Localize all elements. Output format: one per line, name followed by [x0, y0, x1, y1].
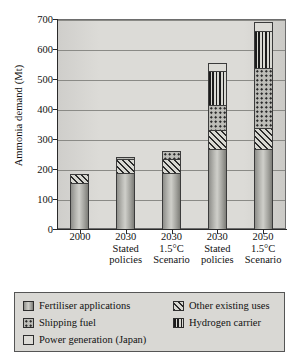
- y-tick-label: 100: [19, 194, 53, 205]
- bar-segment-ship: [116, 157, 135, 159]
- legend-label: Other existing uses: [189, 300, 270, 311]
- legend-item-ship: Shipping fuel: [23, 317, 173, 328]
- x-tick-line: policies: [109, 254, 142, 266]
- x-tick-mark: [263, 230, 264, 234]
- x-tick-line: Stated: [201, 243, 234, 255]
- y-tick-mark: [53, 139, 57, 140]
- bar-segment-h2: [208, 71, 227, 105]
- x-tick-mark: [217, 230, 218, 234]
- legend-label: Power generation (Japan): [39, 334, 146, 345]
- x-tick-line: policies: [201, 254, 234, 266]
- x-tick-line: 1.5°C: [245, 243, 282, 255]
- legend-label: Fertiliser applications: [39, 300, 130, 311]
- legend-swatch-other: [173, 301, 184, 311]
- legend-swatch-h2: [173, 318, 184, 328]
- chart-figure: Ammonia demand (Mt) 01002003004005006007…: [0, 0, 298, 362]
- bar-segment-other: [254, 128, 273, 149]
- bar-segment-fert: [116, 173, 135, 229]
- bar-stack: [254, 19, 273, 229]
- x-tick-line: Scenario: [153, 254, 190, 266]
- legend-swatch-ship: [23, 318, 34, 328]
- legend-item-power: Power generation (Japan): [23, 334, 173, 345]
- x-tick-mark: [172, 230, 173, 234]
- bar-segment-power: [254, 22, 273, 31]
- bar-segment-fert: [254, 149, 273, 229]
- legend-swatch-power: [23, 335, 34, 345]
- bar-stack: [70, 19, 89, 229]
- bar-segment-h2: [254, 31, 273, 69]
- y-tick-mark: [53, 169, 57, 170]
- legend-item-h2: Hydrogen carrier: [173, 317, 276, 328]
- y-tick-mark: [53, 199, 57, 200]
- y-tick-label: 600: [19, 44, 53, 55]
- bar-segment-fert: [70, 183, 89, 230]
- legend-item-fert: Fertiliser applications: [23, 300, 173, 311]
- bar-segment-ship: [254, 68, 273, 127]
- y-tick-label: 300: [19, 134, 53, 145]
- x-tick-line: Stated: [109, 243, 142, 255]
- bar-segment-other: [70, 174, 89, 183]
- bar-stack: [116, 19, 135, 229]
- legend-item-other: Other existing uses: [173, 300, 276, 311]
- y-tick-mark: [53, 229, 57, 230]
- y-axis-line: [57, 19, 58, 230]
- x-tick-label: 20501.5°CScenario: [245, 231, 282, 266]
- x-tick-line: 1.5°C: [153, 243, 190, 255]
- x-tick-mark: [80, 230, 81, 234]
- chart-area: Ammonia demand (Mt) 01002003004005006007…: [0, 0, 298, 285]
- legend-label: Hydrogen carrier: [189, 317, 261, 328]
- bar-segment-other: [208, 130, 227, 149]
- bar-segment-fert: [208, 149, 227, 229]
- y-tick-label: 400: [19, 104, 53, 115]
- x-tick-label: 2030Statedpolicies: [109, 231, 142, 266]
- y-tick-label: 700: [19, 14, 53, 25]
- bar-segment-power: [208, 63, 227, 71]
- bar-stack: [162, 19, 181, 229]
- legend-label: Shipping fuel: [39, 317, 96, 328]
- chart-legend: Fertiliser applicationsOther existing us…: [14, 292, 285, 352]
- bar-segment-other: [162, 159, 181, 173]
- y-tick-mark: [53, 79, 57, 80]
- bar-stack: [208, 19, 227, 229]
- bar-segment-ship: [208, 105, 227, 130]
- y-tick-label: 500: [19, 74, 53, 85]
- y-tick-mark: [53, 49, 57, 50]
- x-tick-label: 20301.5°CScenario: [153, 231, 190, 266]
- bar-segment-other: [116, 159, 135, 173]
- bar-segment-fert: [162, 173, 181, 229]
- x-tick-mark: [126, 230, 127, 234]
- x-tick-label: 2030Statedpolicies: [201, 231, 234, 266]
- y-tick-mark: [53, 109, 57, 110]
- y-tick-label: 200: [19, 164, 53, 175]
- legend-grid: Fertiliser applicationsOther existing us…: [23, 297, 276, 348]
- bar-segment-ship: [162, 151, 181, 159]
- x-tick-line: Scenario: [245, 254, 282, 266]
- legend-swatch-fert: [23, 301, 34, 311]
- y-tick-mark: [53, 19, 57, 20]
- y-tick-label: 0: [19, 224, 53, 235]
